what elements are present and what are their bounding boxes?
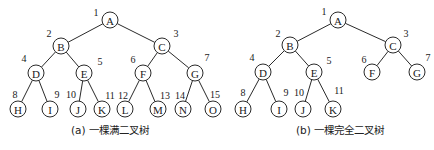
tree-edge bbox=[297, 24, 331, 42]
tree-edge bbox=[117, 24, 155, 43]
tree-edge bbox=[168, 51, 189, 68]
node-number: 3 bbox=[174, 28, 179, 39]
node-number: 10 bbox=[294, 87, 304, 98]
full-tree-nodes: A1B2C3D4E5F6G7H8I9J10K11L12M13N14O15 bbox=[10, 7, 221, 118]
node-label: B bbox=[57, 41, 64, 53]
tree-edge bbox=[41, 52, 55, 67]
tree-node-e: E5 bbox=[76, 56, 103, 82]
node-label: J bbox=[76, 104, 81, 116]
node-number: 4 bbox=[22, 53, 27, 64]
tree-edge bbox=[199, 80, 210, 102]
node-label: H bbox=[239, 104, 247, 116]
node-label: F bbox=[369, 67, 375, 79]
tree-edge bbox=[186, 81, 193, 102]
complete-tree-nodes: A1B2C3D4E5F6G7H8I9J10K11 bbox=[235, 6, 431, 118]
tree-node-h: H8 bbox=[10, 89, 26, 118]
node-number: 9 bbox=[284, 87, 289, 98]
tree-node-b: B2 bbox=[47, 28, 70, 55]
tree-node-l: L12 bbox=[117, 90, 133, 118]
tree-edge bbox=[129, 80, 140, 102]
node-number: 12 bbox=[118, 90, 128, 101]
tree-edge bbox=[269, 51, 285, 67]
tree-edge bbox=[318, 79, 330, 102]
node-label: M bbox=[153, 104, 163, 116]
tree-edge bbox=[266, 79, 276, 101]
node-number: 7 bbox=[426, 52, 431, 63]
tree-edge bbox=[305, 80, 311, 102]
node-number: 2 bbox=[276, 28, 281, 39]
full-binary-tree: A1B2C3D4E5F6G7H8I9J10K11L12M13N14O15 (a)… bbox=[10, 7, 221, 137]
node-number: 11 bbox=[105, 90, 115, 101]
node-label: I bbox=[48, 104, 52, 116]
node-label: K bbox=[98, 104, 106, 116]
node-number: 1 bbox=[94, 7, 99, 18]
node-number: 4 bbox=[250, 52, 255, 63]
node-number: 3 bbox=[404, 28, 409, 39]
tree-node-h: H8 bbox=[235, 87, 251, 118]
tree-edge bbox=[398, 51, 411, 66]
node-number: 10 bbox=[66, 89, 76, 100]
tree-node-b: B2 bbox=[276, 28, 299, 54]
node-number: 8 bbox=[241, 87, 246, 98]
tree-node-g: G7 bbox=[187, 52, 210, 82]
tree-edge bbox=[39, 80, 47, 101]
binary-tree-diagrams: A1B2C3D4E5F6G7H8I9J10K11L12M13N14O15 (a)… bbox=[0, 0, 434, 150]
tree-edge bbox=[66, 52, 79, 67]
node-label: E bbox=[311, 67, 318, 79]
tree-node-d: D4 bbox=[22, 53, 45, 82]
node-number: 11 bbox=[334, 85, 344, 96]
tree-node-k: K11 bbox=[94, 90, 115, 118]
tree-edge bbox=[88, 80, 99, 102]
node-label: I bbox=[277, 104, 281, 116]
tree-node-a: A1 bbox=[94, 7, 119, 29]
full-tree-caption: (a) 一棵满二叉树 bbox=[71, 124, 150, 136]
node-label: C bbox=[389, 40, 396, 52]
complete-binary-tree: A1B2C3D4E5F6G7H8I9J10K11 (b) 一棵完全二叉树 bbox=[235, 6, 431, 137]
node-number: 8 bbox=[13, 89, 18, 100]
node-number: 9 bbox=[55, 89, 60, 100]
tree-node-k: K11 bbox=[325, 85, 344, 118]
node-label: E bbox=[81, 68, 88, 80]
node-label: A bbox=[106, 15, 114, 27]
tree-edge bbox=[146, 80, 155, 101]
tree-node-d: D4 bbox=[250, 52, 272, 81]
node-number: 6 bbox=[131, 54, 136, 65]
node-label: G bbox=[191, 68, 199, 80]
node-label: F bbox=[140, 68, 146, 80]
tree-edge bbox=[68, 24, 103, 43]
tree-node-f: F6 bbox=[362, 54, 381, 81]
node-label: D bbox=[32, 68, 40, 80]
tree-node-c: C3 bbox=[385, 28, 409, 54]
node-label: B bbox=[286, 40, 293, 52]
tree-edge bbox=[345, 23, 385, 41]
tree-node-f: F6 bbox=[131, 54, 152, 82]
node-number: 14 bbox=[175, 90, 185, 101]
tree-node-a: A1 bbox=[322, 6, 347, 29]
node-label: L bbox=[122, 104, 129, 116]
node-number: 1 bbox=[322, 6, 327, 17]
complete-tree-caption: (b) 一棵完全二叉树 bbox=[296, 124, 385, 136]
tree-edge bbox=[148, 53, 158, 67]
node-number: 6 bbox=[362, 54, 367, 65]
node-number: 5 bbox=[327, 55, 332, 66]
node-label: O bbox=[209, 104, 217, 116]
node-number: 5 bbox=[98, 56, 103, 67]
tree-edge bbox=[79, 81, 82, 101]
node-label: A bbox=[334, 15, 342, 27]
tree-edge bbox=[377, 51, 388, 65]
tree-node-e: E5 bbox=[306, 55, 332, 81]
node-label: G bbox=[413, 67, 421, 79]
node-label: J bbox=[301, 104, 306, 116]
node-label: D bbox=[259, 67, 267, 79]
node-label: C bbox=[158, 41, 165, 53]
tree-node-m: M13 bbox=[150, 90, 170, 118]
tree-node-g: G7 bbox=[409, 52, 431, 81]
node-label: K bbox=[329, 104, 337, 116]
tree-node-o: O15 bbox=[205, 89, 221, 118]
tree-node-c: C3 bbox=[154, 28, 179, 55]
tree-node-i: I9 bbox=[271, 87, 289, 118]
node-number: 2 bbox=[47, 28, 52, 39]
tree-edge bbox=[295, 51, 308, 66]
tree-node-i: I9 bbox=[42, 89, 60, 118]
tree-edge bbox=[22, 80, 33, 102]
